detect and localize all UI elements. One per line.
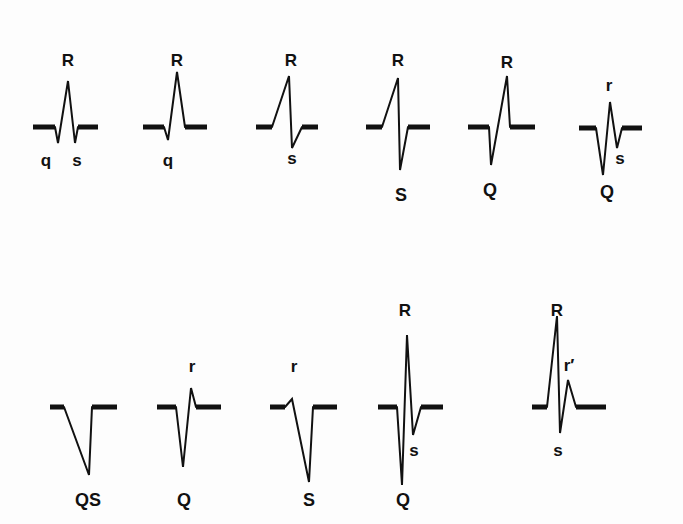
label-s: s	[615, 150, 624, 167]
complex-RS	[366, 78, 430, 170]
qrs-morphology-diagram	[0, 0, 683, 524]
label-R: R	[171, 52, 183, 69]
label-Q: Q	[483, 181, 497, 199]
complex-qRs	[33, 81, 98, 143]
label-R: R	[285, 52, 297, 69]
label-R: R	[62, 52, 74, 69]
label-s: s	[72, 152, 81, 169]
complex-QRs	[378, 335, 443, 485]
label-S: S	[303, 491, 315, 509]
label-S: S	[395, 186, 407, 204]
complex-QS	[50, 407, 117, 475]
complex-QR	[468, 76, 535, 165]
complex-QrS	[579, 102, 642, 175]
label-q: q	[41, 152, 51, 169]
complex-Qr	[157, 388, 221, 467]
label-r-prime: r′	[564, 357, 575, 374]
label-q: q	[163, 152, 173, 169]
label-Q: Q	[177, 491, 191, 509]
label-s: s	[553, 442, 562, 459]
complex-rS	[270, 399, 337, 482]
label-R: R	[551, 302, 563, 319]
label-QS: QS	[75, 491, 101, 509]
complex-RSr-prime	[532, 316, 606, 433]
complex-qR	[143, 72, 207, 140]
label-R: R	[501, 54, 513, 71]
label-Q: Q	[600, 183, 614, 201]
label-R: R	[392, 52, 404, 69]
label-r: r	[606, 77, 613, 94]
label-r: r	[291, 358, 298, 375]
label-R: R	[399, 302, 411, 319]
label-r: r	[189, 358, 196, 375]
complex-Rs	[256, 76, 318, 148]
label-s: s	[409, 442, 418, 459]
label-s: s	[287, 150, 296, 167]
label-Q: Q	[396, 491, 410, 509]
